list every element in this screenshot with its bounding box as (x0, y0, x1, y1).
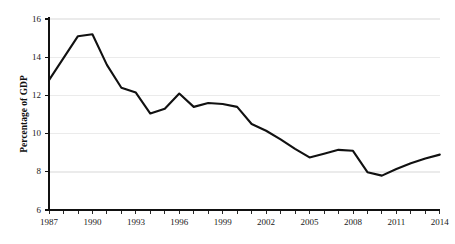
x-tick-label-1996: 1996 (170, 217, 189, 227)
y-tick-label-10: 10 (32, 128, 42, 138)
x-tick-label-2002: 2002 (257, 217, 275, 227)
x-tick-label-2014: 2014 (431, 217, 450, 227)
y-tick-label-6: 6 (37, 205, 42, 215)
y-tick-label-14: 14 (32, 52, 42, 62)
y-tick-label-16: 16 (32, 14, 42, 24)
chart-background (0, 0, 455, 244)
x-tick-label-1999: 1999 (214, 217, 233, 227)
line-chart: 16 14 12 10 8 6 (0, 0, 455, 244)
y-tick-label-12: 12 (32, 90, 41, 100)
x-tick-label-2005: 2005 (301, 217, 320, 227)
y-tick-label-8: 8 (37, 166, 42, 176)
x-tick-label-1987: 1987 (40, 217, 59, 227)
x-tick-label-2008: 2008 (344, 217, 363, 227)
x-tick-label-2011: 2011 (388, 217, 406, 227)
x-tick-label-1993: 1993 (127, 217, 146, 227)
chart-figure: 16 14 12 10 8 6 (0, 0, 455, 244)
x-tick-label-1990: 1990 (83, 217, 102, 227)
y-axis-title: Percentage of GDP (19, 75, 29, 153)
